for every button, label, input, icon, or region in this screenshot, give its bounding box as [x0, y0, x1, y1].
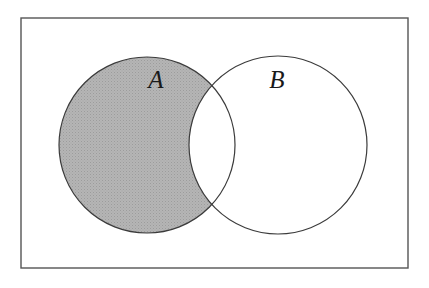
- venn-diagram-canvas: A B: [0, 0, 429, 288]
- set-label-a: A: [146, 66, 164, 93]
- set-label-b: B: [269, 66, 284, 93]
- venn-diagram-figure: A B: [0, 0, 429, 288]
